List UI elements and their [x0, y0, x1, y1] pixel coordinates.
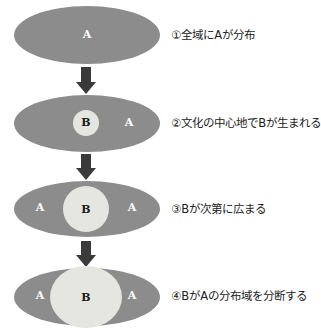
down-arrow-icon [76, 241, 96, 268]
step-2-label-b: B [81, 117, 90, 129]
step-3-caption: ③Bが次第に広まる [171, 202, 266, 216]
step-4-label-a-right: A [128, 290, 137, 302]
step-4-label-b: B [81, 292, 90, 304]
step-4-caption: ④BがAの分布域を分断する [171, 289, 307, 303]
step-4-label-a-left: A [36, 290, 45, 302]
down-arrow-icon [76, 67, 96, 95]
step-3-label-b: B [81, 204, 90, 216]
step-1-caption: ①全域にAが分布 [171, 28, 255, 42]
step-2-label-a-right: A [125, 117, 134, 129]
step-3-label-a-right: A [128, 202, 137, 214]
step-1-label-a: A [83, 29, 92, 41]
step-3-label-a-left: A [36, 202, 45, 214]
down-arrow-icon [76, 154, 96, 181]
step-2-caption: ②文化の中心地でBが生まれる [171, 116, 321, 130]
